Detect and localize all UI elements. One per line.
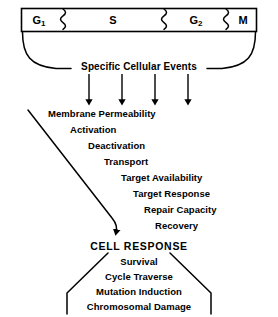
response-item-survival: Survival — [120, 257, 157, 267]
specific-cellular-events-title: Specific Cellular Events — [81, 62, 197, 72]
cell-cycle-bar — [22, 9, 257, 32]
response-item-cycle-traverse: Cycle Traverse — [105, 272, 173, 282]
event-item-recovery: Recovery — [155, 221, 198, 231]
event-item-target-availability: Target Availability — [121, 173, 202, 183]
event-item-activation: Activation — [70, 125, 116, 135]
cell-cycle-diagram: G1 S G2 M Specific Cellular Events Membr… — [0, 0, 278, 317]
response-item-chromosomal-damage: Chromosomal Damage — [87, 302, 191, 312]
phase-label-m: M — [238, 15, 247, 26]
brace-right-icon — [207, 32, 256, 69]
cell-cycle-bar-outline — [22, 9, 257, 32]
event-item-transport: Transport — [104, 157, 148, 167]
response-item-mutation-induction: Mutation Induction — [96, 287, 182, 297]
cell-response-title: CELL RESPONSE — [90, 241, 188, 252]
phase-label-g1: G1 — [32, 15, 45, 26]
event-item-deactivation: Deactivation — [88, 141, 145, 151]
event-item-repair-capacity: Repair Capacity — [144, 205, 217, 215]
event-arrows-group — [89, 74, 188, 103]
phase-label-g2: G2 — [189, 15, 202, 26]
brace-left-icon — [23, 32, 72, 69]
event-item-membrane-permeability: Membrane Permeability — [48, 109, 156, 119]
event-item-target-response: Target Response — [133, 189, 210, 199]
phase-label-s: S — [109, 15, 116, 26]
